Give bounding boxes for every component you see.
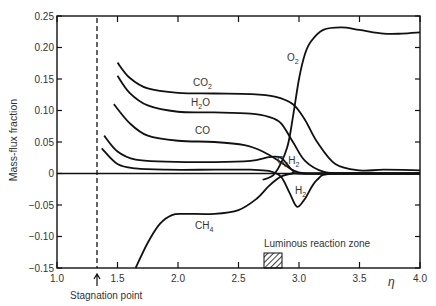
y-tick-label: −0.15 (29, 263, 55, 274)
x-tick-label: 2.0 (171, 273, 185, 284)
label-o2: O2 (287, 52, 299, 65)
mass-flux-chart: 0.250.200.150.100.050−0.05−0.10−0.15 1.0… (0, 0, 436, 306)
y-tick-label: 0.10 (35, 105, 55, 116)
luminous-zone-box (264, 253, 282, 268)
y-tick-label: 0.25 (35, 11, 55, 22)
x-axis-label: η (388, 275, 395, 289)
x-tick-label: 4.0 (413, 273, 427, 284)
x-tick-label: 1.5 (111, 273, 125, 284)
curve-h2 (102, 148, 420, 207)
arrow-up-icon (94, 274, 100, 286)
x-tick-label: 3.0 (292, 273, 306, 284)
y-axis-label: Mass-flux fraction (7, 99, 19, 181)
label-h2: H2 (295, 185, 306, 198)
stagnation-label: Stagnation point (70, 290, 143, 301)
curve-co (114, 104, 420, 174)
plot-frame (57, 16, 420, 268)
label-h2o: H2O (191, 97, 210, 110)
y-tick-label: 0.15 (35, 74, 55, 85)
y-tick-label: −0.10 (29, 231, 55, 242)
x-axis-ticks: 1.01.52.02.53.03.54.0 (50, 16, 427, 284)
label-co: CO (195, 125, 210, 136)
y-tick-label: 0 (48, 168, 54, 179)
label-ch4: CH4 (195, 220, 213, 233)
luminous-label: Luminous reaction zone (264, 238, 371, 249)
y-tick-label: 0.20 (35, 42, 55, 53)
y-tick-label: −0.05 (29, 200, 55, 211)
x-tick-label: 1.0 (50, 273, 64, 284)
x-tick-label: 3.5 (353, 273, 367, 284)
curve-c2h2 (104, 136, 420, 174)
curves (57, 27, 420, 268)
curve-o2 (263, 27, 420, 179)
y-tick-label: 0.05 (35, 137, 55, 148)
x-tick-label: 2.5 (232, 273, 246, 284)
label-co2: CO2 (193, 77, 212, 90)
